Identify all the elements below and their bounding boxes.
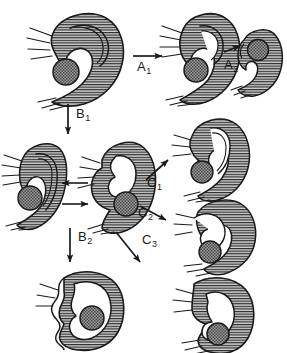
label-c3-text: C <box>142 232 151 247</box>
label-c3-sub: 3 <box>152 239 157 249</box>
label-c1-sub: 1 <box>157 182 162 192</box>
label-b2: B2 <box>78 230 92 243</box>
label-c2: C2 <box>138 206 152 219</box>
label-a1-sub: 1 <box>146 66 151 76</box>
label-b1: B1 <box>76 107 90 120</box>
label-c3: C3 <box>142 233 156 246</box>
label-b1-sub: 1 <box>85 113 90 123</box>
label-a1-text: A <box>137 59 146 74</box>
arrow-c3 <box>116 232 140 262</box>
label-a1: A1 <box>137 60 151 73</box>
label-c2-text: C <box>138 205 147 220</box>
label-b2-sub: 2 <box>87 236 92 246</box>
arrow-a2 <box>224 46 240 52</box>
label-c2-sub: 2 <box>148 212 153 222</box>
morphogenesis-diagram: A1 A2 B1 B2 C1 C2 C3 <box>0 0 287 353</box>
label-c1-text: C <box>147 175 156 190</box>
label-c1: C1 <box>147 176 161 189</box>
label-a2-sub: 2 <box>233 64 238 74</box>
label-a2: A2 <box>224 58 238 71</box>
label-a2-text: A <box>224 57 233 72</box>
transition-arrows <box>0 0 287 353</box>
label-b2-text: B <box>78 229 87 244</box>
label-b1-text: B <box>76 106 85 121</box>
